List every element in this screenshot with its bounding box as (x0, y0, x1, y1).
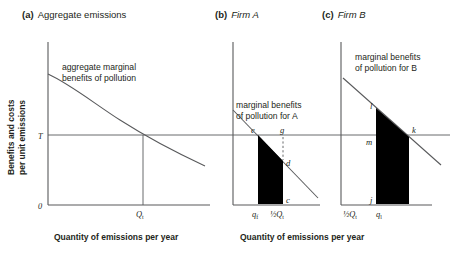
panel-c-halfqt-sub: t (355, 214, 357, 220)
panel-a-qt-sub: t (142, 214, 144, 220)
panel-b-curve-label-line1: marginal benefits (236, 100, 301, 110)
panel-b-x-axis-label: Quantity of emissions per year (240, 232, 365, 242)
panel-a-origin-label: 0 (38, 202, 43, 211)
panel-a-curve-label-line1: aggregate marginal (62, 62, 136, 72)
panel-c-halfqt-main: ½Q (343, 210, 355, 219)
panel-c-halfqt-label: ½Qt (343, 210, 357, 220)
panel-b-title: (b)Firm A (215, 9, 259, 20)
panel-b-qf-label: qf (252, 210, 258, 220)
panel-c-curve-label-line1: marginal benefits (355, 52, 420, 62)
panel-c-title-text: Firm B (338, 9, 367, 20)
panel-b-point-c: c (286, 195, 290, 205)
panel-a-aggregate-mb-curve (48, 74, 205, 166)
panel-b-title-text: Firm A (231, 9, 259, 20)
panel-b-shaded-region (258, 135, 283, 204)
panel-c: marginal benefits of pollution for B l k… (341, 42, 441, 220)
panel-a-T-label: T (38, 132, 44, 141)
panel-b-point-g: g (280, 125, 285, 135)
panel-b-curve-label-line2: of pollution for A (236, 111, 298, 121)
panel-b-point-e: e (251, 125, 255, 135)
panel-c-ql-label: ql (376, 210, 382, 220)
panel-c-point-m: m (366, 137, 372, 147)
panel-c-curve-label-line2: of pollution for B (355, 63, 417, 73)
panel-c-point-k: k (412, 125, 416, 135)
panel-c-point-j: j (369, 195, 373, 205)
panel-a-curve-label-line2: benefits of pollution (62, 73, 136, 83)
panel-c-tag: (c) (322, 9, 334, 20)
panel-a-title: (a)Aggregate emissions (22, 9, 127, 20)
panel-c-title: (c)Firm B (322, 9, 366, 20)
panel-b-halfqt-sub: t (282, 214, 284, 220)
panel-a-x-axis-label: Quantity of emissions per year (54, 232, 179, 242)
panel-c-ql-sub: l (380, 214, 382, 220)
emissions-figure: (a)Aggregate emissions (b)Firm A (c)Firm… (0, 0, 450, 257)
panel-a: Benefits and costs per unit emissions ag… (6, 42, 210, 242)
panel-a-y-axis-label-line1: Benefits and costs (6, 99, 16, 175)
panel-c-point-l: l (370, 101, 373, 111)
panel-a-title-text: Aggregate emissions (38, 9, 127, 20)
panel-b-qf-sub: f (256, 214, 258, 220)
panel-b-point-d: d (286, 158, 291, 168)
panel-a-tag: (a) (22, 9, 34, 20)
panel-a-qt-label: Qt (136, 210, 144, 220)
panel-b-halfqt-main: ½Q (270, 210, 282, 219)
panel-a-y-axis-label-line2: per unit emissions (17, 100, 27, 175)
panel-b-tag: (b) (215, 9, 227, 20)
panel-b-halfqt-label: ½Qt (270, 210, 284, 220)
